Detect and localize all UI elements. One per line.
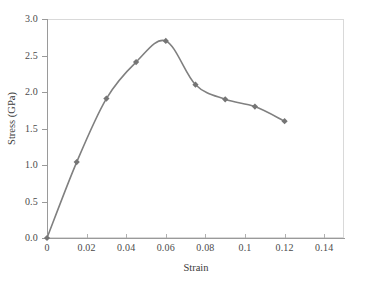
data-point-marker [222, 96, 228, 102]
series-line [47, 40, 285, 238]
data-point-marker [252, 104, 258, 110]
series-markers [44, 38, 288, 241]
series-layer [0, 0, 368, 284]
stress-strain-chart: 0.00.51.01.52.02.53.0 00.020.040.060.080… [0, 0, 368, 284]
data-point-marker [74, 159, 80, 165]
data-point-marker [44, 235, 50, 241]
data-point-marker [282, 118, 288, 124]
